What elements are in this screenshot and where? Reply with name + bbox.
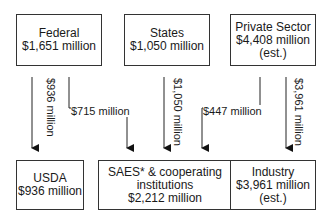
flow-private-saes-label: $447 million bbox=[203, 105, 262, 117]
private-sector-amount: $4,408 million bbox=[236, 34, 310, 47]
saes-label: SAES* & cooperating bbox=[108, 166, 222, 179]
private-sector-note: (est.) bbox=[259, 47, 286, 60]
federal-amount: $1,651 million bbox=[22, 40, 96, 53]
flow-federal-usda-label: $936 million bbox=[45, 78, 57, 137]
saes-box: SAES* & cooperating institutions $2,212 … bbox=[98, 160, 232, 210]
saes-amount: $2,212 million bbox=[128, 192, 202, 205]
states-amount: $1,050 million bbox=[130, 40, 204, 53]
industry-note: (est.) bbox=[259, 192, 286, 205]
flow-states-saes-label: $1,050 million bbox=[172, 78, 184, 146]
flow-private-industry-label: $3,961 million bbox=[293, 78, 305, 146]
usda-box: USDA $936 million bbox=[16, 160, 84, 210]
saes-label-2: institutions bbox=[137, 179, 194, 192]
flow-federal-saes-label: $715 million bbox=[71, 105, 130, 117]
states-box: States $1,050 million bbox=[124, 14, 210, 66]
private-sector-box: Private Sector $4,408 million (est.) bbox=[230, 14, 316, 66]
usda-amount: $936 million bbox=[18, 185, 82, 198]
industry-amount: $3,961 million bbox=[236, 179, 310, 192]
industry-label: Industry bbox=[252, 166, 295, 179]
federal-box: Federal $1,651 million bbox=[16, 14, 102, 66]
industry-box: Industry $3,961 million (est.) bbox=[230, 160, 316, 210]
private-sector-label: Private Sector bbox=[235, 21, 310, 34]
